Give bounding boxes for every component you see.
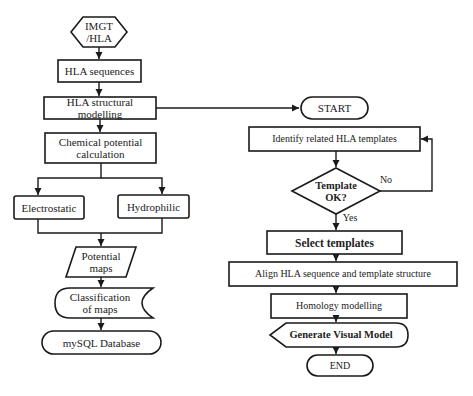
classification-of-maps-label: Classification of maps (55, 288, 145, 318)
no-branch-label: No (376, 173, 396, 187)
identify-templates-label: Identify related HLA templates (249, 127, 420, 151)
hydrophilic-label: Hydrophilic (118, 195, 189, 218)
align-label: Align HLA sequence and template structur… (229, 262, 457, 286)
electrostatic-label: Electrostatic (14, 196, 84, 219)
end-label: END (307, 355, 373, 376)
potential-maps-label: Potential maps (66, 247, 136, 277)
generate-visual-model-label: Generate Visual Model (276, 323, 406, 347)
yes-branch-label: Yes (338, 211, 362, 225)
template-ok-decision-label: Template OK? (300, 178, 372, 206)
source-imgt-hla-label: IMGT /HLA (71, 17, 127, 47)
start-label: START (301, 97, 368, 119)
homology-modelling-label: Homology modelling (271, 294, 407, 318)
select-templates-label: Select templates (267, 231, 402, 254)
hla-structural-modelling-label: HLA structural modelling (44, 97, 156, 119)
mysql-database-label: mySQL Database (42, 331, 161, 354)
chemical-potential-label: Chemical potential calculation (45, 133, 156, 163)
hla-sequences-label: HLA sequences (58, 60, 141, 82)
